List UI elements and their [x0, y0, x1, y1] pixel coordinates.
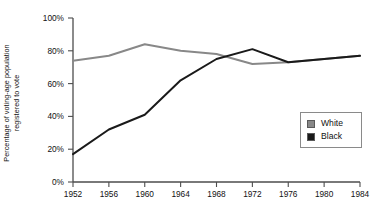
- x-tick-label: 1972: [243, 189, 262, 199]
- x-axis-tick-marks: [73, 182, 360, 187]
- legend-item-white: White: [307, 117, 354, 130]
- x-tick-label: 1976: [279, 189, 298, 199]
- legend-item-black: Black: [307, 130, 354, 143]
- x-tick-label: 1964: [171, 189, 190, 199]
- x-tick-label: 1980: [315, 189, 334, 199]
- legend-swatch-black-icon: [307, 133, 315, 141]
- x-tick-label: 1956: [100, 189, 119, 199]
- x-tick-label: 1968: [207, 189, 226, 199]
- series-line-white: [73, 44, 360, 64]
- y-tick-label: 80%: [47, 46, 64, 56]
- legend-swatch-white-icon: [307, 120, 315, 128]
- x-tick-label: 1960: [136, 189, 155, 199]
- line-chart: Percentage of voting-age population regi…: [0, 0, 382, 219]
- legend-label-black: Black: [321, 132, 342, 141]
- y-axis-tick-labels: 0%20%40%60%80%100%: [43, 13, 65, 187]
- chart-legend: White Black: [300, 112, 362, 148]
- x-tick-label: 1952: [64, 189, 83, 199]
- y-tick-label: 20%: [47, 144, 64, 154]
- y-axis-tick-marks: [68, 18, 73, 182]
- legend-label-white: White: [321, 119, 343, 128]
- y-tick-label: 40%: [47, 111, 64, 121]
- y-tick-label: 0%: [52, 177, 65, 187]
- x-axis-tick-labels: 195219561960196419681972197619801984: [64, 189, 370, 199]
- x-tick-label: 1984: [351, 189, 370, 199]
- plot-area: 0%20%40%60%80%100% 195219561960196419681…: [0, 0, 382, 219]
- y-tick-label: 100%: [43, 13, 65, 23]
- y-tick-label: 60%: [47, 79, 64, 89]
